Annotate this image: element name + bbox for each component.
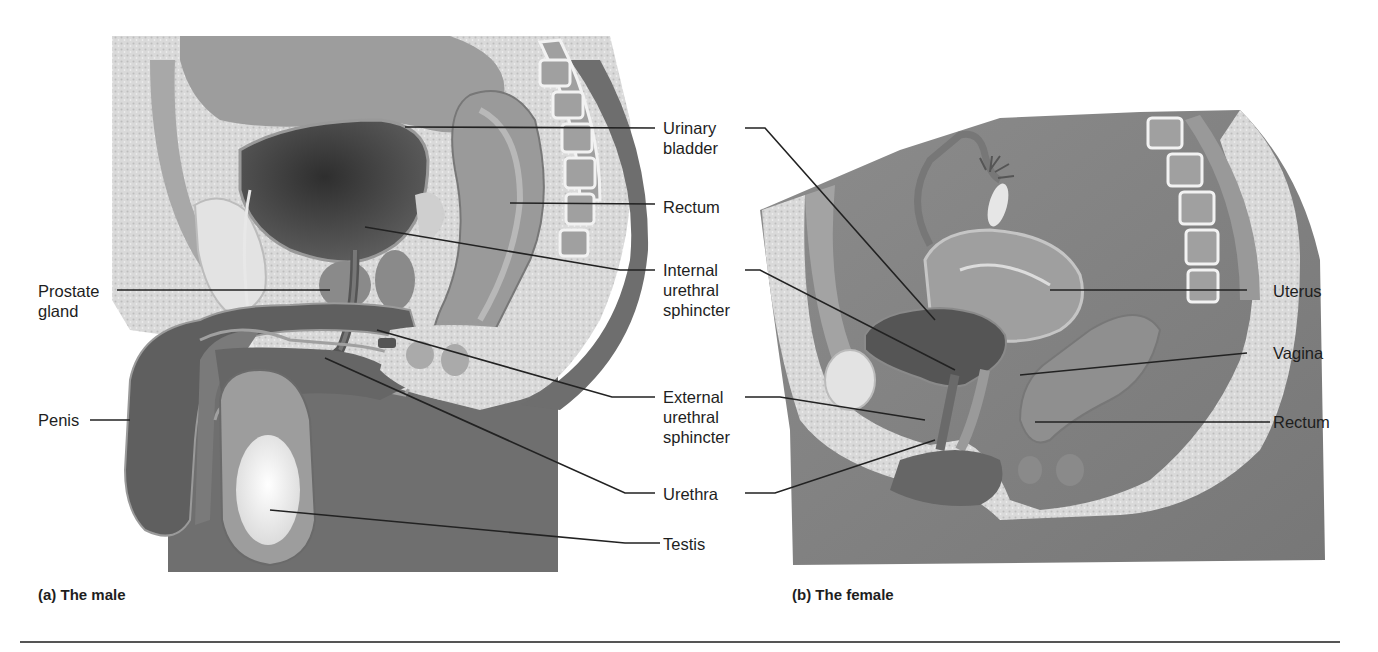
label-internal-line2: urethral xyxy=(663,280,730,300)
leader-rectum-male xyxy=(510,203,655,204)
label-rectum-male: Rectum xyxy=(663,197,720,217)
bottom-rule xyxy=(20,641,1340,643)
leader-urinary-bladder-male xyxy=(405,127,655,128)
label-internal-line3: sphincter xyxy=(663,300,730,320)
caption-female: (b) The female xyxy=(792,586,894,603)
label-urethra: Urethra xyxy=(663,484,718,504)
label-testis: Testis xyxy=(663,534,705,554)
label-prostate-gland: Prostate gland xyxy=(38,281,99,321)
label-penis: Penis xyxy=(38,410,79,430)
label-prostate-line2: gland xyxy=(38,301,99,321)
label-uterus: Uterus xyxy=(1273,281,1322,301)
label-external-line3: sphincter xyxy=(663,427,730,447)
anatomy-illustration xyxy=(0,0,1378,652)
female-illustration xyxy=(760,110,1325,565)
label-external-line1: External xyxy=(663,387,730,407)
label-internal-urethral-sphincter: Internal urethral sphincter xyxy=(663,260,730,320)
caption-male: (a) The male xyxy=(38,586,126,603)
label-rectum-female: Rectum xyxy=(1273,412,1330,432)
anatomy-figure: Urinary bladder Rectum Internal urethral… xyxy=(0,0,1378,652)
label-vagina: Vagina xyxy=(1273,343,1323,363)
label-urinary-bladder-line1: Urinary xyxy=(663,118,718,138)
label-external-line2: urethral xyxy=(663,407,730,427)
male-illustration xyxy=(112,36,648,572)
label-urinary-bladder-line2: bladder xyxy=(663,138,718,158)
label-prostate-line1: Prostate xyxy=(38,281,99,301)
label-external-urethral-sphincter: External urethral sphincter xyxy=(663,387,730,447)
label-internal-line1: Internal xyxy=(663,260,730,280)
label-urinary-bladder: Urinary bladder xyxy=(663,118,718,158)
